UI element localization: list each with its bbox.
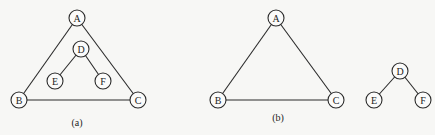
node-f: F bbox=[95, 73, 111, 89]
figure-b-nodes: ABCDEF bbox=[210, 10, 431, 108]
node-label: C bbox=[333, 95, 340, 106]
node-c: C bbox=[328, 92, 344, 108]
node-a: A bbox=[268, 10, 284, 26]
node-label: D bbox=[396, 66, 403, 77]
figure-a-undirected-graph: ADEFBC (a) bbox=[11, 10, 146, 129]
node-label: C bbox=[135, 95, 142, 106]
node-label: D bbox=[77, 44, 84, 55]
node-b: B bbox=[11, 92, 27, 108]
node-d: D bbox=[392, 63, 408, 79]
node-c: C bbox=[130, 92, 146, 108]
node-b: B bbox=[210, 92, 226, 108]
edge-a-b bbox=[218, 18, 276, 100]
node-label: A bbox=[272, 13, 280, 24]
node-label: A bbox=[73, 13, 81, 24]
node-label: B bbox=[215, 95, 222, 106]
figure-a-nodes: ADEFBC bbox=[11, 10, 146, 108]
node-e: E bbox=[47, 73, 63, 89]
node-label: F bbox=[100, 76, 106, 87]
figure-b-connected-components: ABCDEF (b) bbox=[210, 10, 431, 124]
node-d: D bbox=[73, 41, 89, 57]
node-f: F bbox=[415, 92, 431, 108]
figure-a-edges bbox=[19, 18, 138, 100]
graph-diagram-canvas: ADEFBC (a) ABCDEF (b) bbox=[0, 0, 435, 135]
node-label: E bbox=[371, 95, 377, 106]
figure-b-caption: (b) bbox=[272, 112, 284, 124]
edge-a-c bbox=[276, 18, 336, 100]
node-label: B bbox=[16, 95, 23, 106]
node-a: A bbox=[69, 10, 85, 26]
figure-a-caption: (a) bbox=[71, 117, 82, 129]
node-label: E bbox=[52, 76, 58, 87]
figure-b-edges bbox=[218, 18, 423, 100]
node-e: E bbox=[366, 92, 382, 108]
node-label: F bbox=[420, 95, 426, 106]
edge-a-b bbox=[19, 18, 77, 100]
